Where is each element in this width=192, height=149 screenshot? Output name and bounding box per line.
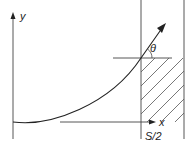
y-axis (11, 12, 16, 139)
y-axis-label: y (19, 10, 27, 22)
diagram-canvas: y x θ S/2 (0, 0, 192, 149)
trajectory-arrow-icon (157, 23, 166, 33)
hatched-region (141, 55, 186, 124)
y-axis-arrow-icon (11, 12, 16, 19)
x-axis-arrow-icon (149, 120, 156, 125)
boundary-s2-label: S/2 (145, 130, 162, 142)
angle-theta-label: θ (150, 42, 156, 54)
x-axis (60, 120, 156, 125)
trajectory-curve (13, 31, 160, 123)
